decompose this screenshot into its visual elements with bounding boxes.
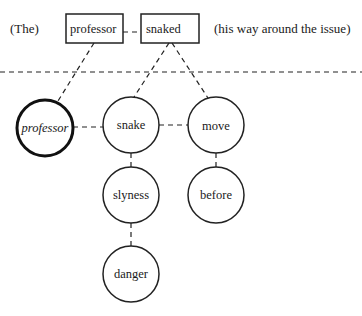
word-box-snaked-label: snaked [146,22,181,36]
node-slyness-label: slyness [113,188,149,202]
node-before-label: before [200,188,232,202]
node-professor-label: professor [21,121,69,135]
snaked-to-snake-link [134,43,169,97]
word-box-professor: professor [66,14,123,43]
node-snake-label: snake [117,118,146,132]
node-danger-label: danger [114,267,149,281]
word-box-snaked: snaked [141,14,199,43]
right-context-text: (his way around the issue) [214,21,350,36]
node-snake: snake [103,97,159,153]
snaked-to-move-link [172,43,208,98]
node-move: move [188,97,244,153]
node-professor: professor [17,100,73,156]
node-danger: danger [103,246,159,302]
left-context-text: (The) [10,21,39,36]
word-box-professor-label: professor [70,22,117,36]
diagram-canvas: (The) (his way around the issue) profess… [0,0,362,316]
node-move-label: move [202,119,230,133]
node-slyness: slyness [103,167,159,223]
node-before: before [188,167,244,223]
